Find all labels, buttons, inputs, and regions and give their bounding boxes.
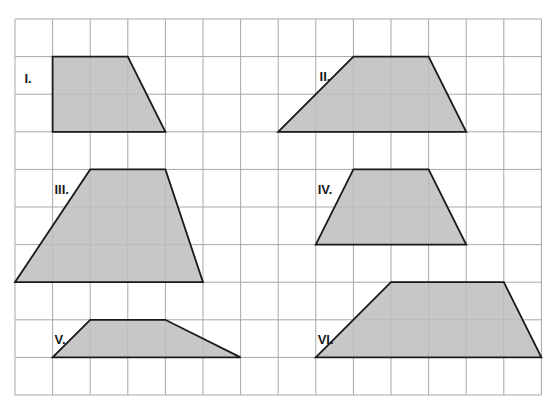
shape-label-vi: VI.	[318, 332, 334, 347]
trapezoid-grid-diagram: I.II.III.IV.V.VI.	[0, 0, 559, 409]
shape-label-v: V.	[54, 332, 65, 347]
shape-label-ii: II.	[320, 69, 331, 84]
shape-label-i: I.	[24, 71, 31, 86]
shape-label-iv: IV.	[318, 182, 333, 197]
trapezoid-iii	[15, 169, 203, 282]
trapezoid-iv	[316, 169, 466, 244]
shape-label-iii: III.	[54, 182, 68, 197]
trapezoid-v	[53, 320, 241, 358]
